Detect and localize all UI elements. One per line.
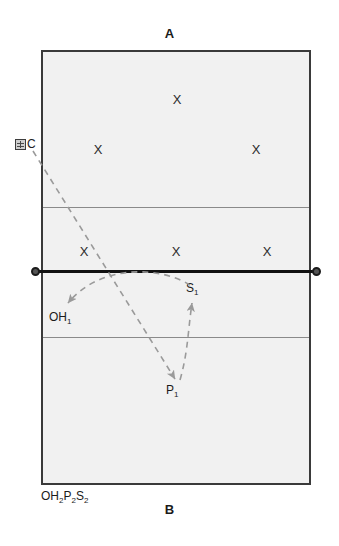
team-b-label: B	[0, 502, 339, 517]
opponent-back-right: X	[252, 142, 261, 157]
coach-box-icon	[15, 139, 26, 150]
net-post-right-icon	[312, 267, 321, 276]
opponent-back-left: X	[94, 142, 103, 157]
opponent-front-left: X	[80, 244, 89, 259]
setter-label: S1	[186, 281, 198, 297]
net-line	[36, 270, 317, 273]
coach-marker: C	[15, 138, 36, 150]
volleyball-drill-diagram: A XXXXXX C S1 OH1 P1 OH2P2S2 B	[0, 0, 339, 546]
coach-label: C	[27, 138, 36, 150]
opponent-front-right: X	[263, 244, 272, 259]
team-a-label: A	[0, 26, 339, 41]
attack-line-team-a	[43, 207, 309, 208]
attack-line-team-b	[43, 337, 309, 338]
outside-hitter-label: OH1	[49, 310, 71, 326]
opponent-back-center: X	[173, 92, 182, 107]
passer-label: P1	[166, 383, 178, 399]
net-post-left-icon	[31, 267, 40, 276]
volleyball-court	[41, 50, 311, 485]
opponent-front-center: X	[172, 244, 181, 259]
